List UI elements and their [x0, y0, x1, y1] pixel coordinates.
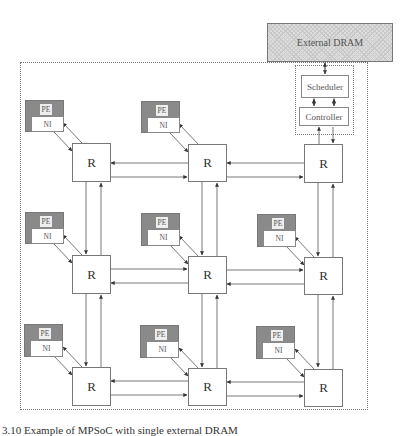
pe-ni-0-1: PE NI	[141, 101, 180, 133]
router-0-2: R	[304, 144, 343, 183]
router-label: R	[319, 380, 328, 396]
router-1-2: R	[304, 257, 343, 295]
pe-ni-2-1: PE NI	[140, 325, 179, 358]
pe-label: PE	[156, 105, 168, 116]
router-2-2: R	[304, 369, 343, 407]
pe-label: PE	[272, 218, 284, 229]
router-label: R	[203, 155, 212, 171]
router-label: R	[319, 268, 328, 284]
router-0-0: R	[72, 143, 111, 182]
ni-block: NI	[31, 116, 64, 132]
pe-label: PE	[39, 328, 51, 339]
ni-block: NI	[30, 340, 63, 357]
ni-label: NI	[275, 346, 283, 355]
router-2-1: R	[188, 368, 227, 406]
router-0-1: R	[188, 144, 227, 182]
ni-block: NI	[147, 117, 180, 133]
pe-ni-1-1: PE NI	[141, 213, 180, 246]
pe-label: PE	[271, 330, 283, 341]
pe-ni-1-2: PE NI	[257, 214, 296, 247]
router-1-0: R	[72, 255, 111, 294]
pe-label: PE	[40, 216, 52, 227]
ni-label: NI	[276, 234, 284, 243]
ni-block: NI	[147, 229, 180, 246]
ni-label: NI	[160, 121, 168, 130]
pe-ni-2-0: PE NI	[24, 324, 63, 357]
pe-ni-2-2: PE NI	[256, 326, 295, 359]
figure-caption: 3.10 Example of MPSoC with single extern…	[2, 424, 238, 436]
pe-label: PE	[40, 104, 52, 115]
ni-block: NI	[263, 230, 296, 247]
diagram-canvas: External DRAM Scheduler Controller	[0, 0, 404, 436]
pe-ni-1-0: PE NI	[25, 212, 64, 244]
ni-label: NI	[44, 120, 52, 129]
router-label: R	[203, 379, 212, 395]
pe-ni-0-0: PE NI	[25, 100, 64, 132]
router-label: R	[319, 156, 328, 172]
router-2-0: R	[72, 367, 111, 406]
ni-label: NI	[159, 345, 167, 354]
ni-label: NI	[44, 232, 52, 241]
router-label: R	[87, 379, 96, 395]
router-1-1: R	[188, 256, 227, 294]
ni-label: NI	[43, 344, 51, 353]
pe-label: PE	[155, 329, 167, 340]
ni-block: NI	[262, 342, 295, 359]
router-label: R	[203, 267, 212, 283]
pe-label: PE	[156, 217, 168, 228]
ni-label: NI	[160, 233, 168, 242]
router-label: R	[87, 155, 96, 171]
ni-block: NI	[31, 228, 64, 244]
router-label: R	[87, 267, 96, 283]
ni-block: NI	[146, 341, 179, 358]
